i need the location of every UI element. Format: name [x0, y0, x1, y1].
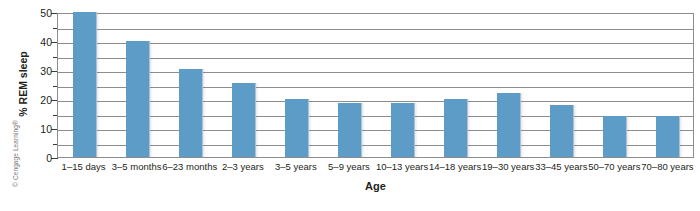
bar — [232, 83, 256, 157]
x-axis-tick-label: 70–80 years — [641, 161, 693, 172]
rem-sleep-bar-chart-figure: © Cengage Learning® % REM sleep 01020304… — [0, 0, 700, 211]
plot-area — [57, 13, 694, 158]
x-axis-tick-label: 50–70 years — [588, 161, 640, 172]
bar — [444, 99, 468, 157]
x-axis-tick-label: 3–5 months — [112, 161, 162, 172]
x-axis-tick-label: 6–23 months — [162, 161, 217, 172]
y-axis-tick-label: 20 — [32, 95, 52, 106]
bar — [126, 41, 150, 157]
x-axis-tick-label: 3–5 years — [275, 161, 317, 172]
x-axis-tick-labels: 1–15 days3–5 months6–23 months2–3 years3… — [57, 161, 694, 177]
bar — [550, 105, 574, 157]
y-axis-tick-label: 10 — [32, 124, 52, 135]
y-axis-tick-label: 0 — [32, 153, 52, 164]
x-axis-tick-label: 14–18 years — [429, 161, 481, 172]
y-axis-tick-mark — [51, 158, 58, 159]
x-axis-tick-label: 33–45 years — [535, 161, 587, 172]
bar — [656, 116, 680, 157]
bar — [497, 93, 521, 157]
x-axis-title: Age — [57, 180, 694, 192]
x-axis-tick-label: 5–9 years — [328, 161, 370, 172]
bar — [603, 116, 627, 157]
x-axis-tick-label: 19–30 years — [482, 161, 534, 172]
bar — [338, 103, 362, 157]
bar — [179, 69, 203, 157]
bar — [391, 103, 415, 157]
bar — [73, 12, 97, 157]
y-axis-tick-labels: 01020304050 — [32, 0, 52, 211]
x-axis-tick-label: 1–15 days — [62, 161, 106, 172]
x-axis-tick-label: 2–3 years — [222, 161, 264, 172]
y-axis-tick-label: 50 — [32, 8, 52, 19]
bar — [285, 99, 309, 157]
y-axis-tick-label: 40 — [32, 37, 52, 48]
bar-series — [58, 14, 693, 157]
y-axis-title: % REM sleep — [17, 39, 29, 129]
y-axis-tick-label: 30 — [32, 66, 52, 77]
x-axis-tick-label: 10–13 years — [376, 161, 428, 172]
